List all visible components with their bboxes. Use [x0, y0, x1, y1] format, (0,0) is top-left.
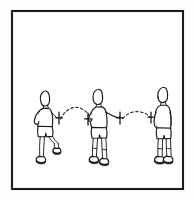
- head-left: [41, 91, 50, 106]
- shorts-right: [156, 128, 171, 139]
- torso-left: [37, 108, 52, 127]
- torso-right: [155, 105, 171, 128]
- shorts-middle: [91, 127, 107, 138]
- torso-middle: [90, 107, 107, 128]
- illustration-canvas: Three-stage ball toss sequence line draw…: [0, 0, 194, 200]
- head-right: [158, 87, 168, 102]
- shorts-left: [38, 126, 53, 137]
- illustration-panel: Three-stage ball toss sequence line draw…: [0, 0, 194, 200]
- head-middle: [93, 89, 103, 104]
